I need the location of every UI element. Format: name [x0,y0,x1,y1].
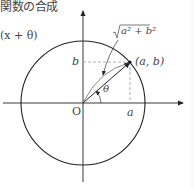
page-edge [191,0,194,188]
point-ab [128,60,131,63]
circle-diagram [0,0,194,188]
theta-arc [96,91,101,103]
b-label: b [72,55,79,68]
point-label: (a, b) [135,55,164,68]
theta-label: θ [103,83,109,94]
radius-label: a² + b² [121,25,156,36]
a-label: a [127,106,134,119]
origin-label: O [72,105,81,118]
